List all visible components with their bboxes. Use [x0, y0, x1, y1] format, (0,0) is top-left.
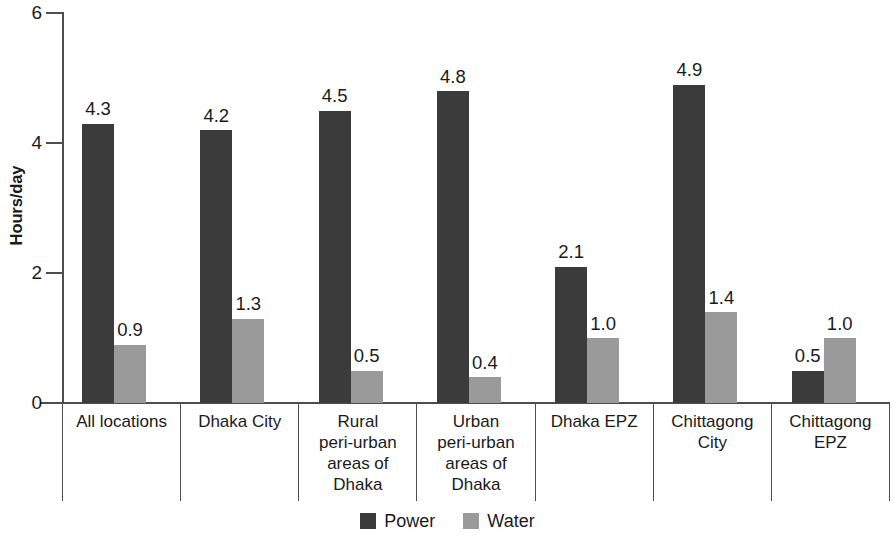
bar-group: 0.51.0 — [772, 13, 890, 403]
bar-chart-figure: Hours/day 0246 4.30.94.21.34.50.54.80.42… — [0, 0, 895, 544]
category-label-line: areas of — [417, 453, 534, 474]
y-axis-tick-mark — [46, 272, 62, 274]
bar-water — [705, 312, 737, 403]
bar-water — [824, 338, 856, 403]
bar-value-label: 4.9 — [665, 61, 713, 80]
legend: Power Water — [0, 512, 895, 530]
bar-group: 4.80.4 — [417, 13, 535, 403]
category-label-line: Chittagong — [654, 411, 771, 432]
bar-value-label: 1.3 — [224, 295, 272, 314]
bar-power — [792, 371, 824, 404]
bar-value-label: 1.4 — [697, 289, 745, 308]
bar-water — [232, 319, 264, 404]
category-cell: ChittagongEPZ — [771, 404, 890, 501]
category-label-line: City — [654, 432, 771, 453]
bar-water — [469, 377, 501, 403]
bar-value-label: 0.5 — [343, 347, 391, 366]
category-label-line: EPZ — [772, 432, 889, 453]
x-axis-category-labels: All locationsDhaka CityRuralperi-urbanar… — [62, 404, 890, 501]
legend-item-water: Water — [463, 512, 534, 530]
bar-value-label: 1.0 — [579, 315, 627, 334]
y-axis-tick-label: 4 — [2, 133, 42, 152]
bar-water — [587, 338, 619, 403]
bar-water — [114, 345, 146, 404]
category-cell: ChittagongCity — [653, 404, 771, 501]
bar-value-label: 2.1 — [547, 243, 595, 262]
y-axis-tick-label: 6 — [2, 3, 42, 22]
category-label-line: peri-urban — [299, 432, 416, 453]
bar-power — [673, 85, 705, 404]
y-axis-tick-mark — [46, 142, 62, 144]
bar-value-label: 4.5 — [311, 87, 359, 106]
bar-value-label: 4.8 — [429, 68, 477, 87]
legend-swatch-power-icon — [360, 513, 376, 529]
bar-value-label: 1.0 — [816, 315, 864, 334]
bar-value-label: 0.4 — [461, 354, 509, 373]
category-cell: Ruralperi-urbanareas ofDhaka — [298, 404, 416, 501]
category-label-line: All locations — [63, 411, 180, 432]
bar-group: 4.50.5 — [299, 13, 417, 403]
category-label-line: Rural — [299, 411, 416, 432]
bar-power — [200, 130, 232, 403]
category-label-line: peri-urban — [417, 432, 534, 453]
bar-power — [555, 267, 587, 404]
category-cell: All locations — [62, 404, 180, 501]
plot-area: 4.30.94.21.34.50.54.80.42.11.04.91.40.51… — [62, 13, 890, 403]
category-cell: Urbanperi-urbanareas ofDhaka — [416, 404, 534, 501]
bar-water — [351, 371, 383, 404]
legend-item-power: Power — [360, 512, 435, 530]
bar-group: 2.11.0 — [535, 13, 653, 403]
y-axis-tick-mark — [46, 12, 62, 14]
y-axis-tick-label: 2 — [2, 263, 42, 282]
y-axis-tick-label: 0 — [2, 393, 42, 412]
legend-label-water: Water — [487, 512, 534, 530]
category-label-line: Dhaka — [299, 474, 416, 495]
bar-group: 4.21.3 — [180, 13, 298, 403]
bar-value-label: 0.9 — [106, 321, 154, 340]
bar-group: 4.30.9 — [62, 13, 180, 403]
category-cell: Dhaka EPZ — [535, 404, 653, 501]
category-label-line: Dhaka EPZ — [536, 411, 653, 432]
y-axis-tick-mark — [46, 402, 62, 404]
legend-swatch-water-icon — [463, 513, 479, 529]
category-label-line: Chittagong — [772, 411, 889, 432]
bar-value-label: 4.3 — [74, 100, 122, 119]
category-label-line: Dhaka — [417, 474, 534, 495]
category-cell: Dhaka City — [180, 404, 298, 501]
category-label-line: areas of — [299, 453, 416, 474]
bar-power — [82, 124, 114, 404]
legend-label-power: Power — [384, 512, 435, 530]
y-axis-title: Hours/day — [7, 136, 26, 276]
category-label-line: Dhaka City — [181, 411, 298, 432]
bar-group: 4.91.4 — [653, 13, 771, 403]
bar-value-label: 4.2 — [192, 107, 240, 126]
category-label-line: Urban — [417, 411, 534, 432]
